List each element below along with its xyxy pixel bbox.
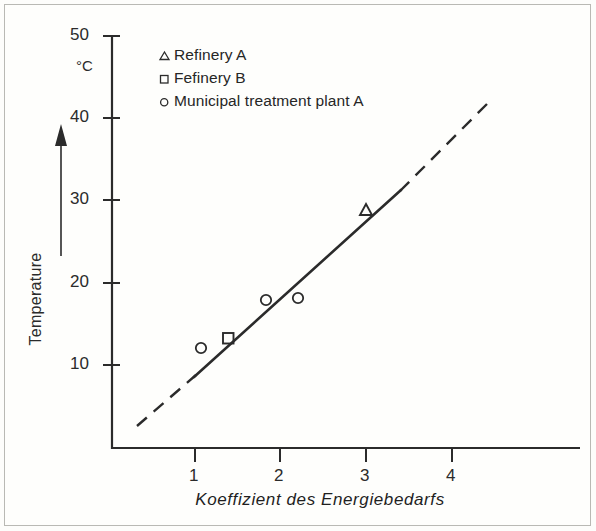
x-tick-label-2: 2 xyxy=(274,466,283,486)
data-point-municipal-3 xyxy=(293,293,303,303)
x-axis-title: Koeffizient des Energiebedarfs xyxy=(150,490,490,510)
legend-item-refinery-a: Refinery A xyxy=(158,44,364,66)
data-point-municipal-2 xyxy=(261,295,271,305)
x-tick-label-3: 3 xyxy=(360,466,369,486)
x-tick-label-1: 1 xyxy=(189,466,198,486)
legend-item-municipal: Municipal treatment plant A xyxy=(158,90,364,112)
chart-legend: Refinery A Fefinery B Municipal treatmen… xyxy=(158,44,364,113)
y-tick-label-10: 10 xyxy=(70,354,89,374)
triangle-marker xyxy=(158,49,174,62)
y-tick-label-20: 20 xyxy=(70,272,89,292)
trend-line-dashed-lower xyxy=(137,375,196,426)
x-tick-label-4: 4 xyxy=(446,466,455,486)
y-tick-label-40: 40 xyxy=(70,107,89,127)
legend-label-refinery-b: Fefinery B xyxy=(174,69,246,87)
x-tick-marks xyxy=(195,448,452,462)
figure-page: 50 40 30 20 10 °C 1 2 3 4 Temperature Ko… xyxy=(0,0,596,531)
y-axis-title: Temperature xyxy=(27,219,45,379)
y-tick-label-30: 30 xyxy=(70,189,89,209)
y-axis-arrow xyxy=(55,124,67,256)
data-point-municipal-1 xyxy=(196,343,206,353)
data-point-refinery-a-1 xyxy=(360,204,372,215)
legend-item-refinery-b: Fefinery B xyxy=(158,67,364,89)
circle-marker xyxy=(158,95,174,108)
y-axis-unit-label: °C xyxy=(76,57,93,74)
y-tick-label-50: 50 xyxy=(70,25,89,45)
trend-line-dashed-upper xyxy=(400,100,491,191)
legend-label-municipal: Municipal treatment plant A xyxy=(174,92,364,110)
legend-label-refinery-a: Refinery A xyxy=(174,46,247,64)
trend-line-solid xyxy=(194,190,401,377)
square-marker xyxy=(158,72,174,85)
